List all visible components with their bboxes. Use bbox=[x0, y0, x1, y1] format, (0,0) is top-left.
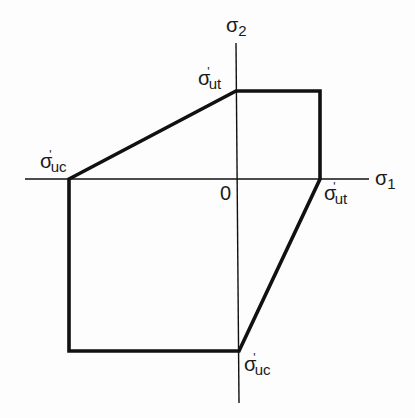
x-axis-label: σ1 bbox=[375, 168, 396, 191]
label-right-ultimate-tension: σ'ut bbox=[324, 183, 347, 206]
origin-label: 0 bbox=[220, 183, 231, 203]
failure-envelope-diagram: σ2 σ1 0 σ'ut σ'uc σ'ut σ'uc bbox=[0, 0, 415, 418]
label-left-ultimate-compression: σ'uc bbox=[40, 151, 66, 174]
diagram-svg bbox=[0, 0, 415, 418]
failure-envelope bbox=[69, 91, 320, 351]
label-top-ultimate-tension: σ'ut bbox=[198, 68, 221, 91]
label-bottom-ultimate-compression: σ'uc bbox=[244, 354, 270, 377]
y-axis-label: σ2 bbox=[226, 15, 247, 38]
